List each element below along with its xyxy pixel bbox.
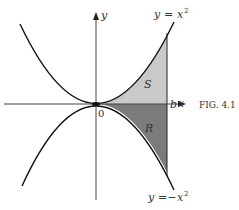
y-axis-label: y [100,9,108,22]
lower-curve-label: y =− x 2 [147,190,188,204]
svg-text:y: y [147,191,155,204]
origin-label: 0 [98,108,104,119]
region-r-label: R [144,122,153,135]
x-axis-label: x [178,97,185,110]
region-s-label: S [144,78,152,91]
region-r [96,104,167,172]
y-axis-arrow-icon [93,12,99,20]
svg-text:=−: =− [158,191,176,204]
origin-point [92,102,100,106]
upper-curve-label: y = x 2 [153,7,188,21]
b-label: b [170,98,177,111]
svg-text:x: x [177,8,184,21]
figure-caption: FIG. 4.1 [199,100,236,110]
svg-text:2: 2 [184,190,188,198]
svg-text:x: x [177,191,184,204]
svg-text:2: 2 [184,7,188,15]
figure-canvas: y x b 0 S R y = x 2 y =− x 2 FIG. 4.1 [0,0,239,210]
region-s [96,36,167,104]
svg-text:=: = [164,8,173,21]
svg-text:y: y [153,8,161,21]
